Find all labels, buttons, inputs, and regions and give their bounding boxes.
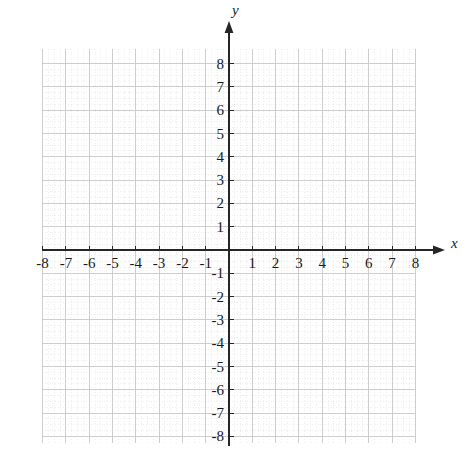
x-tick-label: 2 (272, 256, 280, 271)
y-tick-label: 3 (217, 173, 225, 188)
axis-lines (42, 21, 445, 446)
x-tick-label: -6 (83, 256, 96, 271)
x-tick-label: 3 (295, 256, 303, 271)
y-tick-label: 4 (217, 149, 225, 164)
x-tick-label: 8 (412, 256, 420, 271)
x-tick-label: -5 (106, 256, 119, 271)
y-tick-label: -3 (212, 312, 225, 327)
y-tick-label: -7 (212, 406, 225, 421)
x-tick-label: -3 (153, 256, 166, 271)
y-tick-label: 1 (217, 219, 225, 234)
x-axis-label: x (451, 236, 458, 251)
y-tick-label: -4 (212, 336, 225, 351)
y-axis-label: y (232, 3, 239, 18)
y-tick-label: -6 (212, 382, 225, 397)
x-tick-label: -4 (130, 256, 143, 271)
y-tick-label: -2 (212, 289, 225, 304)
x-tick-label: 7 (388, 256, 396, 271)
y-tick-label: 6 (217, 103, 225, 118)
y-tick-label: -1 (212, 266, 225, 281)
x-tick-label: 4 (318, 256, 326, 271)
x-tick-label: 5 (342, 256, 350, 271)
x-tick-label: -1 (199, 256, 212, 271)
x-tick-label: 1 (249, 256, 257, 271)
x-tick-label: -7 (60, 256, 73, 271)
y-tick-label: -8 (212, 429, 225, 444)
y-tick-label: 8 (217, 56, 225, 71)
y-tick-label: 5 (217, 126, 225, 141)
coordinate-plane-figure: -8-7-6-5-4-3-2-112345678 87654321-1-2-3-… (0, 0, 468, 470)
y-tick-label: 2 (217, 196, 225, 211)
x-tick-label: -2 (176, 256, 189, 271)
x-tick-label: -8 (36, 256, 49, 271)
y-tick-label: 7 (217, 79, 225, 94)
x-tick-label: 6 (365, 256, 373, 271)
coordinate-grid-svg (0, 0, 468, 470)
y-tick-label: -5 (212, 359, 225, 374)
